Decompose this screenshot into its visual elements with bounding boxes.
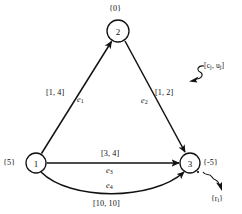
node-3-tick-dot [197, 171, 199, 173]
annotation-edge-notation: [cj, uj] [204, 62, 224, 70]
edge-cost-capacity-e3: [3, 4] [101, 150, 119, 158]
squiggle-pointer-node-icon [203, 172, 219, 184]
edge-cost-capacity-e4: [10, 10] [93, 200, 120, 208]
annotation-node-suffix: } [219, 194, 223, 203]
edge-name-e3: e3 [106, 167, 113, 175]
node-supply-label-1: {5} [3, 159, 15, 167]
node-label-3: 3 [188, 159, 193, 169]
annotation-edge-suffix: ] [222, 61, 225, 70]
edge-name-e2: e2 [141, 97, 148, 105]
annotation-node-notation: {ri} [211, 195, 223, 203]
edge-name-e1: e1 [77, 96, 84, 104]
node-label-2: 2 [116, 27, 121, 37]
edge-cost-capacity-e2: [1, 2] [155, 89, 173, 97]
edge-name-e1-sub: 1 [81, 98, 84, 104]
network-flow-diagram: 1 2 3 {0} {5} {-5} [1, 4] e1 e2 [1, 2] [… [0, 0, 242, 214]
edge-name-e4: e4 [106, 182, 113, 190]
edge-name-e4-sub: 4 [110, 184, 113, 190]
edge-cost-capacity-e1: [1, 4] [46, 89, 64, 97]
annotation-edge-mid: , u [212, 61, 220, 70]
diagram-canvas: 1 2 3 [0, 0, 242, 214]
node-supply-label-3: {-5} [203, 159, 218, 167]
edge-name-e3-sub: 3 [110, 169, 113, 175]
squiggle-pointer-edge-icon [196, 66, 204, 79]
node-label-1: 1 [34, 159, 39, 169]
node-supply-label-2: {0} [109, 5, 121, 13]
edge-name-e2-sub: 2 [145, 99, 148, 105]
